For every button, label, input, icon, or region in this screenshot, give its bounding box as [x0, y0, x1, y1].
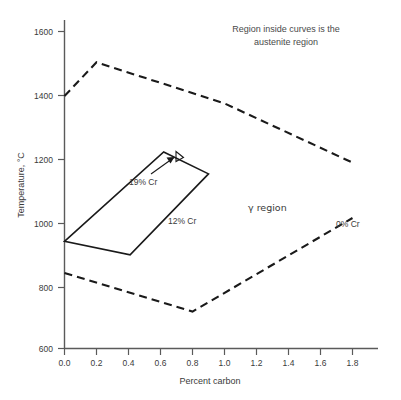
caption-line-1: Region inside curves is the	[232, 24, 340, 34]
chart-figure: 1600 1400 1200 1000 800 600 0.0 0.2 0.4 …	[0, 0, 401, 400]
axis-lines	[64, 20, 378, 349]
y-tick-label-1000: 1000	[34, 219, 53, 229]
label-12-cr: 12% Cr	[168, 216, 197, 226]
y-tick-label-1600: 1600	[34, 27, 53, 37]
x-axis-ticks	[65, 349, 353, 356]
x-tick-label-1-4: 1.4	[283, 358, 295, 368]
x-tick-label-1-0: 1.0	[219, 358, 231, 368]
curve-upper-boundary-0-cr	[65, 62, 353, 162]
x-tick-label-0-8: 0.8	[187, 358, 199, 368]
x-tick-label-1-8: 1.8	[347, 358, 359, 368]
label-19-cr: 19% Cr	[129, 177, 158, 187]
x-tick-label-0-2: 0.2	[91, 358, 103, 368]
label-0-cr: 0% Cr	[336, 219, 360, 229]
y-axis-title: Temperature, °C	[16, 152, 26, 218]
x-tick-label-0-6: 0.6	[155, 358, 167, 368]
y-tick-label-1200: 1200	[34, 155, 53, 165]
y-tick-label-1400: 1400	[34, 91, 53, 101]
x-tick-label-1-6: 1.6	[315, 358, 327, 368]
label-gamma-region: γ region	[248, 202, 287, 213]
x-tick-label-0-0: 0.0	[59, 358, 71, 368]
curve-lower-boundary-0-cr	[65, 218, 353, 312]
x-tick-label-0-4: 0.4	[123, 358, 135, 368]
y-tick-label-800: 800	[39, 283, 53, 293]
chart-canvas: 1600 1400 1200 1000 800 600 0.0 0.2 0.4 …	[0, 0, 401, 400]
caption-line-2: austenite region	[254, 37, 318, 47]
x-axis-title: Percent carbon	[179, 376, 240, 386]
open-triangle-marker	[176, 152, 184, 162]
y-axis-ticks	[58, 32, 65, 349]
y-tick-label-600: 600	[39, 344, 53, 354]
curve-cr-austenite-region	[65, 152, 209, 255]
x-tick-label-1-2: 1.2	[251, 358, 263, 368]
